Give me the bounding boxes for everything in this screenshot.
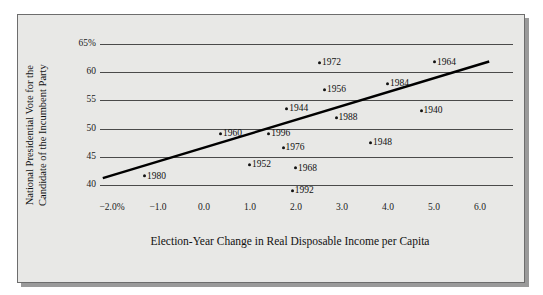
data-point-1968[interactable]: 1968 [294,164,317,174]
point-marker-icon [433,61,436,64]
point-label: 1984 [390,78,409,88]
point-label: 1940 [424,105,443,115]
data-point-1952[interactable]: 1952 [248,161,271,171]
trendline-layer [0,0,543,295]
point-marker-icon [294,167,297,170]
point-marker-icon [323,88,326,91]
point-label: 1968 [298,163,317,173]
data-point-1996[interactable]: 1996 [267,129,290,139]
y-axis-title-line-2: Candidate of the Incumbent Party [36,30,49,240]
point-marker-icon [420,109,423,112]
plot-area: 65% 60 55 50 45 40 −2.0% −1.0 0.0 1.0 [0,0,543,295]
data-point-1956[interactable]: 1956 [323,85,346,95]
y-axis-title: National Presidential Vote for the Candi… [23,30,49,240]
point-marker-icon [318,61,321,64]
y-axis-title-line-1: National Presidential Vote for the [23,30,36,240]
point-label: 1952 [252,160,271,170]
point-label: 1964 [437,57,456,67]
data-point-1976[interactable]: 1976 [282,144,305,154]
data-point-1948[interactable]: 1948 [369,138,392,148]
point-label: 1956 [327,84,346,94]
point-label: 1972 [322,57,341,67]
point-marker-icon [143,175,146,178]
point-label: 1944 [289,103,308,113]
point-label: 1988 [339,113,358,123]
data-point-1988[interactable]: 1988 [335,114,358,124]
point-label: 1992 [295,185,314,195]
data-point-1992[interactable]: 1992 [291,186,314,196]
point-label: 1980 [147,171,166,181]
data-point-1984[interactable]: 1984 [386,79,409,89]
point-label: 1948 [373,137,392,147]
data-point-1960[interactable]: 1960 [219,129,242,139]
data-point-1980[interactable]: 1980 [143,172,166,182]
point-label: 1976 [286,143,305,153]
chart-figure: 65% 60 55 50 45 40 −2.0% −1.0 0.0 1.0 [0,0,543,295]
trend-line [103,62,489,179]
point-marker-icon [291,189,294,192]
point-label: 1960 [223,128,242,138]
data-point-1940[interactable]: 1940 [420,106,443,116]
data-point-1944[interactable]: 1944 [285,104,308,114]
point-marker-icon [267,132,270,135]
point-marker-icon [219,132,222,135]
x-axis-title: Election-Year Change in Real Disposable … [60,236,520,248]
point-marker-icon [335,116,338,119]
point-label: 1996 [271,128,290,138]
data-point-1964[interactable]: 1964 [433,58,456,68]
point-marker-icon [386,82,389,85]
data-point-1972[interactable]: 1972 [318,58,341,68]
point-marker-icon [369,141,372,144]
point-marker-icon [248,163,251,166]
point-marker-icon [282,146,285,149]
point-marker-icon [285,107,288,110]
